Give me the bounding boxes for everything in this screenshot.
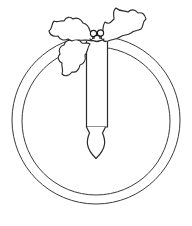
hanging-candle-body bbox=[87, 41, 108, 127]
wreath-illustration bbox=[0, 0, 192, 226]
artboard bbox=[0, 0, 192, 226]
